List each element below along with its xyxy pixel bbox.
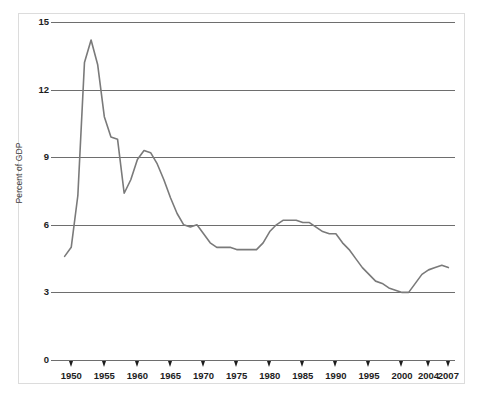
series-line-0 <box>65 40 449 292</box>
x-tick-mark-2007 <box>446 361 450 367</box>
x-tick-mark-1985 <box>300 361 304 367</box>
x-tick-mark-1950 <box>69 361 73 367</box>
x-tick-mark-2004 <box>426 361 430 367</box>
x-tick-mark-1990 <box>333 361 337 367</box>
y-tick-label-6: 6 <box>21 219 49 230</box>
data-series-line <box>58 22 455 360</box>
x-tick-mark-1970 <box>201 361 205 367</box>
y-tick-label-3: 3 <box>21 286 49 297</box>
x-tick-mark-1995 <box>366 361 370 367</box>
x-tick-label-2007: 2007 <box>428 370 468 381</box>
y-tick-label-9: 9 <box>21 151 49 162</box>
x-tick-mark-1980 <box>267 361 271 367</box>
y-tick-label-12: 12 <box>21 84 49 95</box>
x-tick-mark-2000 <box>399 361 403 367</box>
x-tick-mark-1965 <box>168 361 172 367</box>
x-tick-mark-1975 <box>234 361 238 367</box>
x-axis-line <box>58 360 455 361</box>
y-axis-label: Percent of GDP <box>14 123 24 223</box>
y-tick-label-15: 15 <box>21 16 49 27</box>
chart-container: Percent of GDP 03691215 1950195519601965… <box>0 0 480 399</box>
x-tick-mark-1960 <box>135 361 139 367</box>
x-tick-mark-1955 <box>102 361 106 367</box>
y-tick-label-0: 0 <box>21 354 49 365</box>
